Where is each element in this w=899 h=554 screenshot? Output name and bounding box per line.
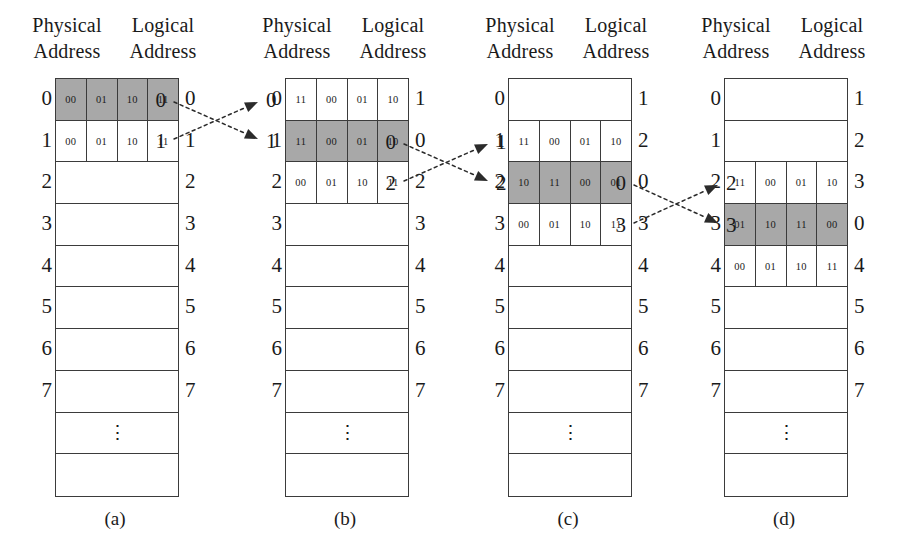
memory-cell: 01 — [87, 79, 118, 120]
header-logical-address: Address — [784, 38, 880, 64]
memory-cell-empty — [286, 287, 408, 328]
logical-address-label: 1 — [415, 78, 445, 120]
logical-address-column: 01234567 — [185, 78, 215, 495]
memory-cell: 01 — [348, 79, 379, 120]
memory-cell-empty — [509, 371, 631, 412]
memory-cell: 11 — [286, 79, 317, 120]
memory-cell: 10 — [571, 204, 602, 245]
memory-cell-empty — [56, 204, 178, 245]
physical-address-label: 7 — [22, 370, 52, 412]
logical-address-label: 2 — [185, 161, 215, 203]
physical-address-label: 2 — [22, 161, 52, 203]
physical-address-label: 5 — [22, 286, 52, 328]
memory-row — [509, 454, 631, 496]
memory-cell: 01 — [725, 204, 756, 245]
memory-cell: 00 — [725, 246, 756, 287]
memory-cell-empty — [509, 79, 631, 120]
physical-address-label: 0 — [475, 78, 505, 120]
physical-address-column: 01234567 — [22, 78, 52, 495]
memory-cell-empty — [56, 287, 178, 328]
logical-address-label: 7 — [854, 370, 884, 412]
physical-address-label: 6 — [475, 328, 505, 370]
memory-cell: 11 — [725, 162, 756, 203]
memory-cell: 00 — [56, 121, 87, 162]
logical-address-label: 2 — [415, 161, 445, 203]
physical-address-label — [691, 412, 721, 454]
physical-address-label: 4 — [22, 245, 52, 287]
header-logical: Logical — [784, 12, 880, 38]
memory-row — [56, 162, 178, 204]
memory-cell: 10 — [348, 162, 379, 203]
physical-address-label: 3 — [475, 203, 505, 245]
physical-address-label — [22, 453, 52, 495]
physical-address-label: 6 — [691, 328, 721, 370]
memory-row: 01101100 — [725, 204, 847, 246]
memory-cell: 01 — [317, 162, 348, 203]
logical-address-label: 0 — [854, 203, 884, 245]
panel-c-header: PhysicalLogicalAddressAddress — [453, 12, 683, 64]
memory-cell-empty — [509, 454, 631, 496]
memory-cell-empty — [286, 371, 408, 412]
panel-d-header: PhysicalLogicalAddressAddress — [669, 12, 899, 64]
memory-cell-empty — [725, 371, 847, 412]
memory-cell: 00 — [540, 121, 571, 162]
logical-address-label: 3 — [185, 203, 215, 245]
panel-caption: (d) — [669, 508, 899, 530]
physical-address-label: 1 — [22, 120, 52, 162]
memory-row: 00011011 — [725, 246, 847, 288]
memory-cell: 10 — [817, 162, 847, 203]
memory-row: 10110001 — [509, 162, 631, 204]
logical-address-label: 4 — [415, 245, 445, 287]
memory-cell-empty — [56, 454, 178, 496]
logical-address-label: 0 — [185, 78, 215, 120]
physical-address-label — [252, 412, 282, 454]
memory-row — [286, 287, 408, 329]
memory-cell: 01 — [540, 204, 571, 245]
panel-caption: (a) — [0, 508, 230, 530]
physical-address-label — [475, 453, 505, 495]
memory-row: 11000110 — [286, 79, 408, 121]
header-physical-address: Address — [472, 38, 568, 64]
logical-address-label: 2 — [854, 120, 884, 162]
logical-address-label — [854, 453, 884, 495]
physical-address-column: 01234567 — [475, 78, 505, 495]
memory-row — [725, 121, 847, 163]
logical-address-label — [638, 412, 668, 454]
physical-address-label: 6 — [252, 328, 282, 370]
logical-address-label: 6 — [638, 328, 668, 370]
physical-address-label: 2 — [475, 161, 505, 203]
memory-cell-empty — [509, 246, 631, 287]
logical-address-label: 6 — [854, 328, 884, 370]
header-logical: Logical — [345, 12, 441, 38]
logical-address-label: 0 — [415, 120, 445, 162]
header-logical-address: Address — [345, 38, 441, 64]
logical-address-label — [185, 453, 215, 495]
physical-address-label: 4 — [252, 245, 282, 287]
memory-cell: 11 — [601, 204, 631, 245]
memory-cell: 11 — [148, 121, 178, 162]
vertical-ellipsis-icon: ⋮ — [509, 413, 631, 454]
logical-address-label: 1 — [185, 120, 215, 162]
memory-row — [725, 287, 847, 329]
physical-address-label: 1 — [691, 120, 721, 162]
memory-row — [509, 246, 631, 288]
header-logical-address: Address — [115, 38, 211, 64]
physical-address-label: 7 — [475, 370, 505, 412]
header-physical: Physical — [249, 12, 345, 38]
physical-address-label: 3 — [22, 203, 52, 245]
physical-address-label: 5 — [252, 286, 282, 328]
memory-row — [725, 371, 847, 413]
physical-address-label — [475, 412, 505, 454]
memory-row — [286, 204, 408, 246]
header-physical-address: Address — [688, 38, 784, 64]
memory-cell: 11 — [509, 121, 540, 162]
physical-address-label: 2 — [691, 161, 721, 203]
memory-cell-empty — [509, 287, 631, 328]
physical-address-label: 4 — [475, 245, 505, 287]
logical-address-label — [854, 412, 884, 454]
logical-address-label: 0 — [638, 161, 668, 203]
memory-row — [56, 454, 178, 496]
header-physical: Physical — [688, 12, 784, 38]
memory-cell-empty — [286, 454, 408, 496]
memory-cell: 10 — [601, 121, 631, 162]
